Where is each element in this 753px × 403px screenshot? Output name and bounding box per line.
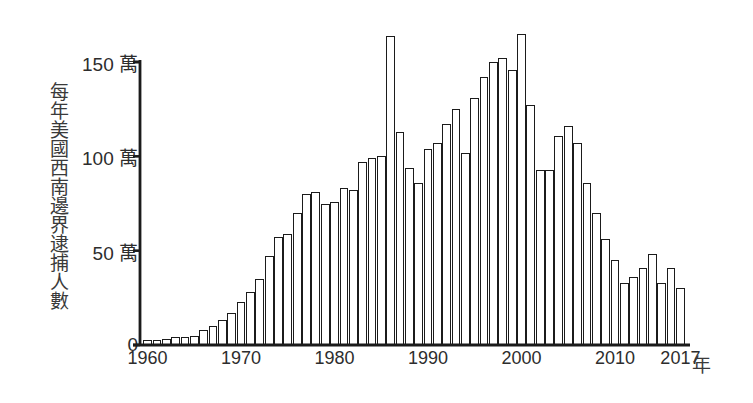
x-axis-title: 年 — [692, 350, 711, 377]
x-tick-label: 2000 — [501, 348, 541, 369]
x-tick-label: 1980 — [315, 348, 355, 369]
bar-chart: 每年美國西南邊界逮捕人數 050 萬100 萬150 萬 19601970198… — [0, 0, 753, 403]
x-tick-label: 2010 — [595, 348, 635, 369]
x-tick-label: 1960 — [128, 348, 168, 369]
x-tick-label: 1970 — [221, 348, 261, 369]
axis-lines — [0, 0, 753, 403]
x-tick-label: 1990 — [408, 348, 448, 369]
